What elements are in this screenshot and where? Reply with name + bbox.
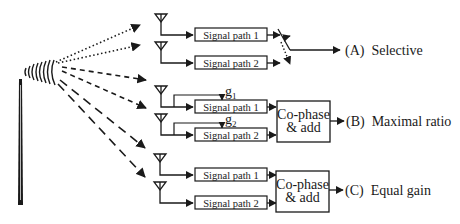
signal-path-2-label: Signal path 2 — [203, 58, 258, 69]
add-label: & add — [286, 120, 321, 135]
diagram-canvas: Signal path 1 Signal path 2 (A)Selective… — [0, 0, 460, 224]
antenna-icon — [155, 114, 167, 122]
signal-path-2-label: Signal path 2 — [203, 130, 258, 141]
scheme-a-label: (A)Selective — [345, 43, 423, 59]
add-label: & add — [285, 190, 320, 205]
antenna-icon — [154, 182, 166, 190]
signal-path-1-label: Signal path 1 — [203, 170, 258, 181]
antenna-icon — [155, 42, 167, 50]
maximal-ratio-rays — [62, 67, 146, 108]
scheme-c-equal-gain: Signal path 1 Signal path 2 Co-phase & a… — [154, 154, 431, 212]
signal-path-1-label: Signal path 1 — [203, 102, 258, 113]
antenna-icon — [154, 154, 166, 162]
diversity-diagram: Signal path 1 Signal path 2 (A)Selective… — [0, 0, 460, 224]
transmitter-tower-icon — [18, 79, 23, 205]
scheme-a-selective: Signal path 1 Signal path 2 (A)Selective — [155, 14, 423, 69]
scheme-b-label: (B)Maximal ratio — [346, 114, 451, 130]
selector-switch-icon — [278, 29, 340, 64]
signal-path-2-label: Signal path 2 — [203, 198, 258, 209]
radio-waves-icon — [25, 60, 55, 85]
antenna-icon — [155, 14, 167, 22]
antenna-icon — [155, 86, 167, 94]
gain-g1-label: g1 — [225, 84, 237, 101]
signal-path-1-label: Signal path 1 — [203, 30, 258, 41]
scheme-b-maximal-ratio: g1 Signal path 1 g2 Signal path 2 Co-pha… — [155, 84, 451, 142]
equal-gain-rays — [58, 80, 145, 177]
selective-rays — [56, 25, 140, 63]
gain-g2-label: g2 — [225, 112, 237, 129]
scheme-c-label: (C)Equal gain — [345, 183, 431, 199]
